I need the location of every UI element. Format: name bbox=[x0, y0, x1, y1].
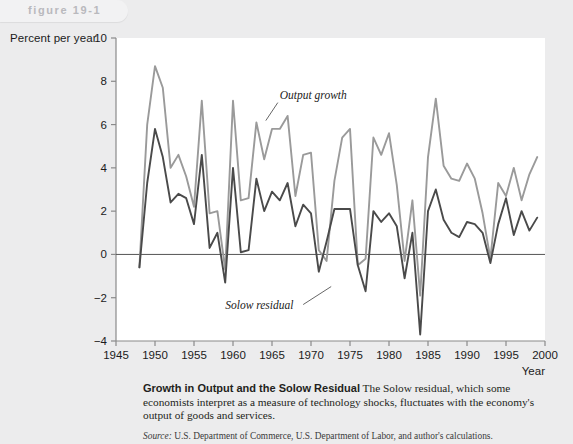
x-axis-tick-label: 2000 bbox=[532, 349, 558, 361]
y-axis-tick-label: 4 bbox=[101, 162, 108, 174]
x-axis-tick-label: 1975 bbox=[337, 349, 363, 361]
source-text: U.S. Department of Commerce, U.S. Depart… bbox=[174, 431, 493, 441]
x-axis-tick-label: 1960 bbox=[220, 349, 246, 361]
line-chart: −4−2024681019451950195519601965197019751… bbox=[0, 0, 573, 444]
x-axis-tick-label: 1990 bbox=[454, 349, 480, 361]
x-axis-tick-label: 1980 bbox=[376, 349, 402, 361]
annotation-output-growth-label: Output growth bbox=[280, 89, 347, 102]
y-axis-tick-label: −2 bbox=[94, 292, 107, 304]
x-axis-tick-label: 1985 bbox=[415, 349, 441, 361]
y-axis-tick-label: 8 bbox=[101, 75, 107, 87]
annotation-output-growth-leader bbox=[266, 103, 278, 121]
source-prefix: Source: bbox=[143, 431, 172, 441]
figure-page: figure 19-1 Percent per year −4−20246810… bbox=[0, 0, 573, 444]
y-axis-tick-label: 10 bbox=[94, 32, 107, 44]
x-axis-tick-label: 1955 bbox=[181, 349, 207, 361]
x-axis-tick-label: 1965 bbox=[259, 349, 285, 361]
y-axis-tick-label: −4 bbox=[94, 335, 108, 347]
x-axis-title: Year bbox=[522, 365, 545, 377]
x-axis-tick-label: 1945 bbox=[103, 349, 129, 361]
figure-source: Source: U.S. Department of Commerce, U.S… bbox=[143, 431, 561, 441]
y-axis-tick-label: 0 bbox=[101, 248, 107, 260]
annotation-solow-residual-label: Solow residual bbox=[225, 299, 293, 311]
x-axis-tick-label: 1995 bbox=[493, 349, 519, 361]
x-axis-tick-label: 1950 bbox=[142, 349, 168, 361]
y-axis-tick-label: 6 bbox=[101, 119, 107, 131]
caption-title: Growth in Output and the Solow Residual bbox=[143, 382, 360, 394]
annotation-solow-residual-leader bbox=[303, 287, 331, 305]
x-axis-tick-label: 1970 bbox=[298, 349, 324, 361]
figure-caption: Growth in Output and the Solow Residual … bbox=[143, 382, 561, 423]
y-axis-tick-label: 2 bbox=[101, 205, 107, 217]
